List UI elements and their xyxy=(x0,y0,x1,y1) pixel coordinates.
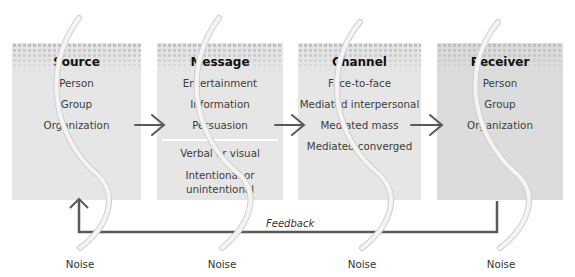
feedback-label: Feedback xyxy=(266,218,314,229)
noise-label: Noise xyxy=(332,258,392,270)
noise-curve-icon xyxy=(197,18,251,248)
arrow-right-icon xyxy=(135,115,164,135)
noise-label: Noise xyxy=(192,258,252,270)
noise-curve-icon xyxy=(337,22,391,248)
connectors xyxy=(0,0,575,277)
arrow-right-icon xyxy=(411,115,442,135)
noise-label: Noise xyxy=(471,258,531,270)
noise-curve-icon xyxy=(56,18,109,248)
arrow-right-icon xyxy=(275,115,304,135)
noise-curve-icon xyxy=(475,22,529,248)
noise-label: Noise xyxy=(50,258,110,270)
